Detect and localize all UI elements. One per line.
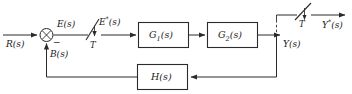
label-block-g2: G2(s) xyxy=(218,30,242,42)
input-sampler-blade xyxy=(86,19,99,40)
label-sampled-output-signal: Y*(s) xyxy=(322,19,343,30)
label-block-h: H(s) xyxy=(151,72,172,82)
label-output-signal: Y(s) xyxy=(283,40,301,49)
label-sampled-error-signal: E*(s) xyxy=(99,16,120,27)
block-g1-base: G xyxy=(149,29,157,40)
label-input-signal: R(s) xyxy=(6,40,24,49)
sampled-error-base: E xyxy=(99,17,106,27)
block-g2-tail: (s) xyxy=(230,29,242,40)
sampled-error-tail: (s) xyxy=(109,17,121,27)
sampled-output-tail: (s) xyxy=(331,20,343,30)
label-error-signal: E(s) xyxy=(57,20,75,29)
block-h-tail: (s) xyxy=(159,71,171,82)
block-g2-base: G xyxy=(218,29,226,40)
label-negative-sign: − xyxy=(53,38,61,47)
output-sampler-blade xyxy=(295,3,311,20)
label-block-g1: G1(s) xyxy=(149,30,173,42)
label-feedback-signal: B(s) xyxy=(50,50,68,59)
block-diagram-canvas: R(s) E(s) − B(s) E*(s) T G1(s) G2(s) H(s… xyxy=(0,0,352,94)
block-g1-tail: (s) xyxy=(161,29,173,40)
label-output-sampler-period: T xyxy=(299,20,305,29)
label-input-sampler-period: T xyxy=(90,41,96,50)
